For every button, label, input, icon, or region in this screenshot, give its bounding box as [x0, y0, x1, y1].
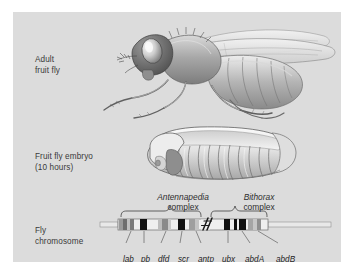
figure-panel: Adult fruit fly Fruit fly embryo (10 hou… [13, 12, 341, 262]
caption-adult-fruit-fly: Adult fruit fly [35, 55, 60, 76]
antennapedia-name: Antennapedia [141, 192, 225, 202]
gene-label-pb: pb [141, 255, 150, 262]
label-bithorax-complex: Bithorax complex [228, 192, 290, 212]
gene-label-abdB: abdB [276, 255, 295, 262]
gene-label-scr: scr [178, 255, 189, 262]
gene-label-abdA: abdA [245, 255, 264, 262]
antennapedia-word: complex [141, 202, 225, 212]
caption-fly-chromosome: Fly chromosome [35, 226, 83, 247]
caption-fruit-fly-embryo: Fruit fly embryo (10 hours) [35, 152, 93, 173]
gene-label-antp: antp [198, 255, 214, 262]
gene-leader-lines [126, 231, 278, 243]
gene-label-ubx: ubx [222, 255, 235, 262]
bithorax-name: Bithorax [228, 192, 290, 202]
label-antennapedia-complex: Antennapedia complex [141, 192, 225, 212]
figure-root: Adult fruit fly Fruit fly embryo (10 hou… [0, 0, 353, 275]
gene-label-dfd: dfd [158, 255, 169, 262]
fly-chromosome-map [13, 12, 341, 262]
chromosome-bar [118, 219, 268, 230]
bithorax-word: complex [228, 202, 290, 212]
bithorax-bands [224, 219, 261, 230]
gene-label-lab: lab [123, 255, 134, 262]
